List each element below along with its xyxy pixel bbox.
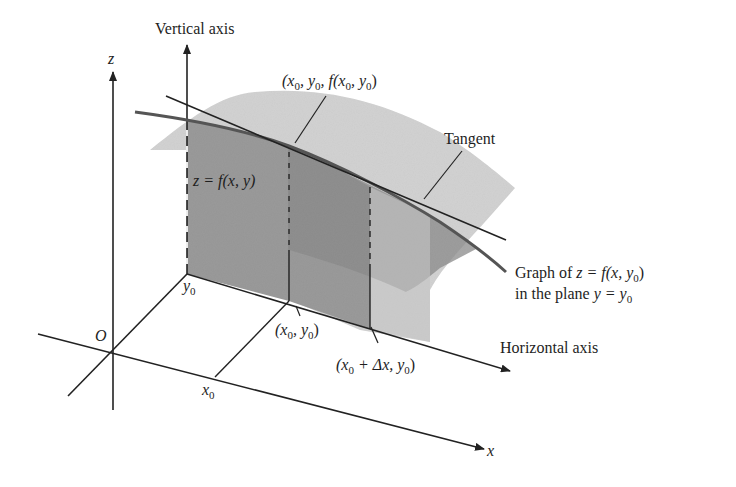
horizontal-axis-label: Horizontal axis [500, 339, 598, 357]
point-delta-mid: + Δx, y [354, 356, 404, 373]
point-delta-sub2: 0 [404, 364, 410, 376]
point-3d-sub3: 0 [345, 80, 351, 92]
point-3d-sub1: 0 [294, 80, 300, 92]
point-delta-sub1: 0 [348, 364, 354, 376]
y0-sub: 0 [190, 285, 196, 297]
point-3d-sub4: 0 [366, 80, 372, 92]
graph-line1-pre: Graph of [515, 264, 576, 281]
z-axis-label: z [108, 50, 114, 68]
point-3d-label: (x0, y0, f(x0, y0) [282, 72, 377, 91]
y-axis [68, 274, 187, 396]
x-axis [38, 334, 484, 449]
graph-line1-post: ) [639, 264, 644, 281]
graph-label-line1: Graph of z = f(x, y0) [515, 264, 644, 283]
y0-label: y0 [183, 277, 196, 296]
point-base-sub1: 0 [287, 329, 293, 341]
point-base-mid: , y [293, 321, 308, 338]
x0-sub: 0 [209, 389, 215, 401]
vertical-axis-label: Vertical axis [155, 20, 235, 38]
x0-label: x0 [202, 381, 215, 400]
point-base-pre: (x [275, 321, 287, 338]
point-delta-post: ) [410, 356, 415, 373]
point-delta-label: (x0 + Δx, y0) [336, 356, 415, 375]
point-base-sub2: 0 [308, 329, 314, 341]
graph-label-line2: in the plane y = y0 [515, 285, 632, 304]
graph-line1-sub: 0 [633, 272, 639, 284]
point-3d-sub2: 0 [315, 80, 321, 92]
graph-line2-eq: y = y [594, 285, 627, 302]
graph-line2-sub: 0 [627, 293, 633, 305]
point-base-label: (x0, y0) [275, 321, 319, 340]
origin-label: O [95, 327, 107, 345]
graph-line1-eq: z = f(x, y [576, 264, 633, 281]
point-3d-mid2: , f(x [321, 72, 346, 89]
partial-derivative-diagram: Vertical axis z O x (x0, y0, f(x0, y0) T… [0, 0, 736, 487]
point-3d-post: ) [372, 72, 377, 89]
graph-line2-pre: in the plane [515, 285, 594, 302]
point-delta-pre: (x [336, 356, 348, 373]
point-base-post: ) [314, 321, 319, 338]
point-3d-mid1: , y [300, 72, 315, 89]
point-3d-mid3: , y [351, 72, 366, 89]
point-3d-pre: (x [282, 72, 294, 89]
x-axis-label: x [487, 442, 494, 460]
tangent-label: Tangent [444, 130, 495, 148]
surface-label: z = f(x, y) [193, 172, 255, 190]
